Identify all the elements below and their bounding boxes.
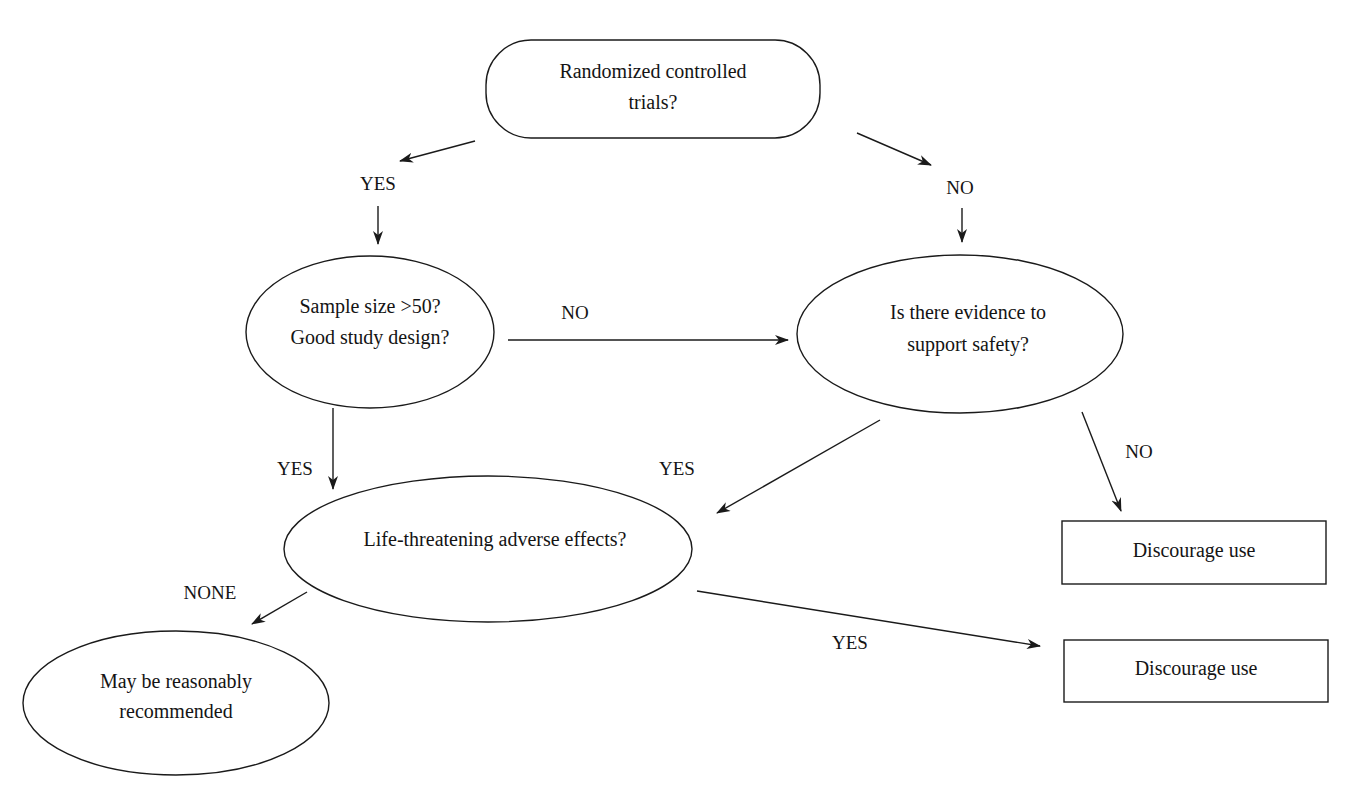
- may-be-recommended-label-line-1: May be reasonably: [100, 670, 252, 693]
- edge-label-life-none: NONE: [184, 582, 237, 603]
- safety-evidence-label-line-1: Is there evidence to: [890, 301, 1046, 323]
- arrow-life-none: [252, 592, 307, 624]
- arrow-life-yes: [697, 591, 1040, 646]
- may-be-recommended-label-line-2: recommended: [119, 700, 232, 722]
- sample-size-label-line-1: Sample size >50?: [299, 295, 440, 318]
- sample-size-label-line-2: Good study design?: [291, 326, 450, 349]
- life-threatening-label: Life-threatening adverse effects?: [364, 528, 627, 551]
- node-discourage-use-2: Discourage use: [1064, 640, 1328, 702]
- arrow-safety-yes: [717, 420, 880, 513]
- node-discourage-use-1: Discourage use: [1062, 521, 1326, 584]
- edge-label-sample-yes: YES: [277, 458, 313, 479]
- node-life-threatening: Life-threatening adverse effects?: [284, 476, 692, 622]
- arrow-safety-no: [1082, 412, 1121, 511]
- node-may-be-recommended: May be reasonably recommended: [23, 631, 329, 775]
- arrow-rct-no: [857, 133, 931, 165]
- discourage-use-2-label: Discourage use: [1135, 657, 1258, 680]
- node-rct: Randomized controlled trials?: [486, 40, 820, 138]
- edge-label-sample-no: NO: [561, 302, 588, 323]
- edge-label-safety-no: NO: [1125, 441, 1152, 462]
- safety-evidence-label-line-2: support safety?: [907, 333, 1029, 356]
- edge-label-safety-yes: YES: [659, 458, 695, 479]
- node-sample-size: Sample size >50? Good study design?: [246, 256, 494, 408]
- rct-label-line-2: trials?: [629, 91, 678, 113]
- rct-rounded-box: [486, 40, 820, 138]
- flowchart-diagram: Randomized controlled trials? YES NO Sam…: [0, 0, 1352, 799]
- node-safety-evidence: Is there evidence to support safety?: [797, 255, 1123, 413]
- arrow-rct-yes: [400, 141, 475, 161]
- edge-label-rct-no: NO: [946, 177, 973, 198]
- edge-label-rct-yes: YES: [360, 173, 396, 194]
- edge-label-life-yes: YES: [832, 632, 868, 653]
- rct-label-line-1: Randomized controlled: [559, 60, 746, 82]
- discourage-use-1-label: Discourage use: [1133, 539, 1256, 562]
